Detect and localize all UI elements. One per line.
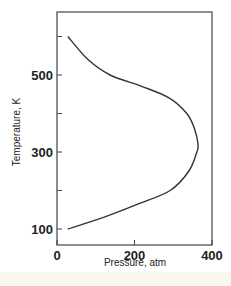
y-tick-label: 300 xyxy=(31,145,53,160)
plot-frame xyxy=(57,12,212,245)
x-axis-title: Pressure, atm xyxy=(104,257,166,268)
axis-ticks xyxy=(57,37,212,246)
tick-labels: 1003005000200400 xyxy=(31,68,223,264)
y-axis-title: Temperature, K xyxy=(11,97,22,166)
plot-border xyxy=(57,12,212,245)
x-tick-label: 400 xyxy=(201,248,223,263)
y-tick-label: 500 xyxy=(31,68,53,83)
chart: 1003005000200400 Pressure, atm Temperatu… xyxy=(0,0,231,286)
y-tick-label: 100 xyxy=(31,222,53,237)
x-tick-label: 0 xyxy=(53,248,60,263)
data-curve xyxy=(68,37,198,230)
